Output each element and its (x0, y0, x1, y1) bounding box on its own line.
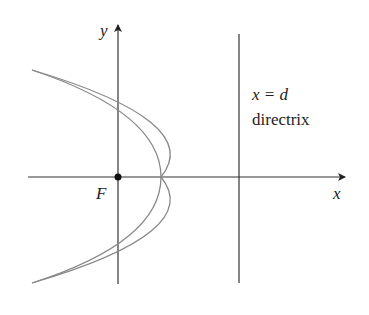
directrix-label: directrix (252, 110, 310, 129)
y-axis-label: y (98, 21, 108, 40)
focus-point (115, 174, 122, 181)
directrix-equation: x = d (251, 85, 289, 104)
parabola-diagram: y x F x = d directrix (0, 0, 369, 315)
focus-label: F (95, 184, 107, 203)
x-axis-label: x (332, 184, 341, 203)
